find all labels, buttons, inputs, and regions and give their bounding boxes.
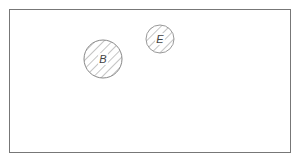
set-b-label: B bbox=[99, 53, 106, 65]
set-b: B bbox=[84, 40, 122, 78]
set-e: E bbox=[146, 25, 174, 53]
venn-diagram: B E bbox=[0, 0, 299, 161]
set-e-label: E bbox=[156, 33, 164, 45]
